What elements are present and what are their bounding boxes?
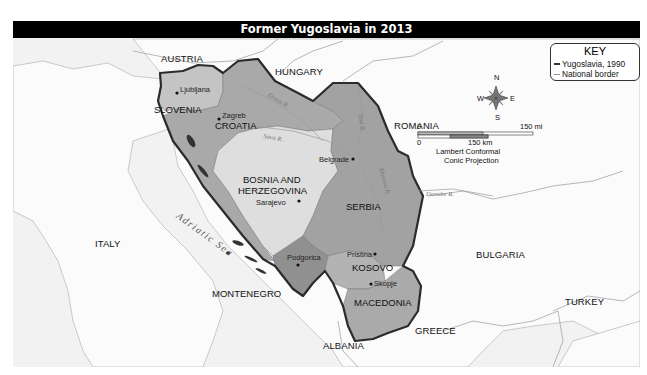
city-zagreb: Zagreb	[222, 111, 246, 120]
scale-km-max: 150 km	[468, 138, 493, 147]
label-italy: ITALY	[95, 238, 121, 249]
compass-s: S	[495, 113, 500, 122]
label-serbia: SERBIA	[346, 201, 381, 212]
thin-line-swatch	[554, 74, 560, 75]
city-skopje: Skopje	[374, 279, 397, 288]
city-sarajevo: Sarajevo	[256, 198, 286, 207]
map-canvas	[13, 21, 640, 367]
label-albania: ALBANIA	[323, 340, 364, 351]
label-danube-river: Danube R.	[426, 190, 454, 197]
compass-e: E	[510, 94, 515, 103]
label-greece: GREECE	[415, 325, 456, 336]
key-item-national-border: National border	[554, 69, 619, 79]
label-bosnia-1: BOSNIA AND	[243, 174, 301, 185]
city-pristina: Pristina	[347, 250, 372, 259]
label-kosovo: KOSOVO	[352, 262, 393, 273]
label-bosnia-2: HERZEGOVINA	[238, 185, 307, 196]
map-key: KEY Yugoslavia, 1990 National border	[550, 43, 640, 81]
label-romania: ROMANIA	[394, 120, 439, 131]
scale-mi-max: 150 mi	[520, 122, 543, 131]
city-ljubljana: Ljubljana	[180, 85, 210, 94]
label-bulgaria: BULGARIA	[476, 249, 525, 260]
compass-n: N	[494, 73, 499, 82]
city-belgrade: Belgrade	[319, 155, 349, 164]
map-frame: Former Yugoslavia in 2013	[13, 21, 640, 367]
label-macedonia: MACEDONIA	[354, 297, 412, 308]
thick-line-swatch	[554, 63, 560, 65]
label-slovenia: SLOVENIA	[154, 104, 202, 115]
key-item-yugoslavia: Yugoslavia, 1990	[554, 59, 625, 69]
label-montenegro: MONTENEGRO	[212, 288, 281, 299]
label-austria: AUSTRIA	[161, 53, 203, 64]
city-podgorica: Podgorica	[287, 253, 321, 262]
label-hungary: HUNGARY	[275, 66, 323, 77]
map-title: Former Yugoslavia in 2013	[13, 21, 640, 38]
projection-line2: Conic Projection	[444, 156, 499, 165]
label-croatia: CROATIA	[215, 120, 257, 131]
label-turkey: TURKEY	[565, 296, 604, 307]
scale-km-zero: 0	[417, 138, 421, 147]
compass-w: W	[477, 94, 484, 103]
key-title: KEY	[551, 45, 639, 57]
projection-line1: Lambert Conformal	[436, 147, 500, 156]
